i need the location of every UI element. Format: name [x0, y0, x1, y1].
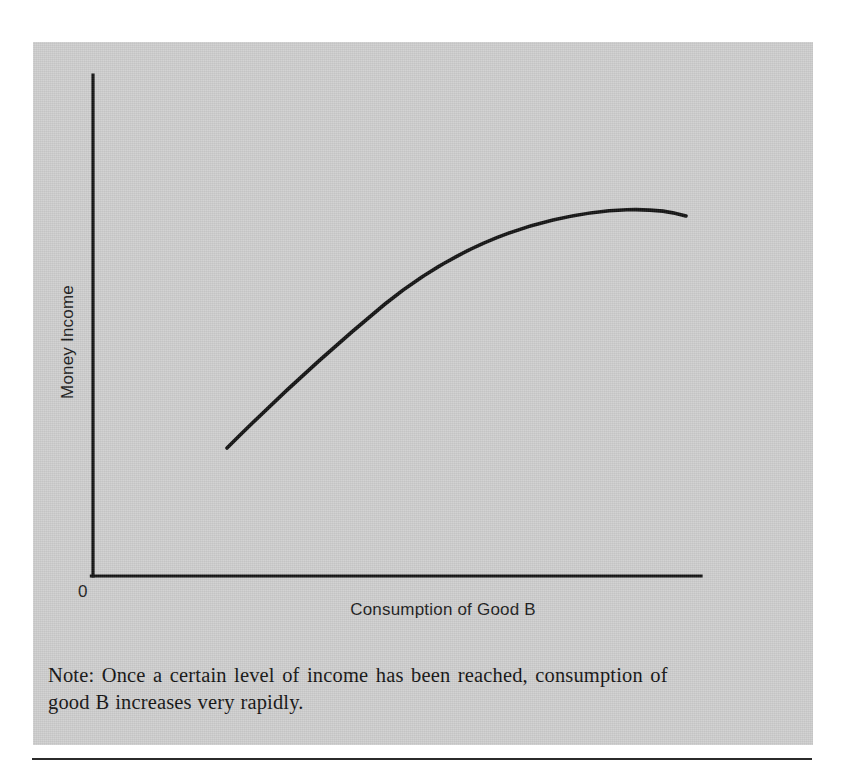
- origin-label: 0: [78, 582, 87, 602]
- figure-root: Money Income Consumption of Good B 0 Not…: [0, 0, 842, 780]
- chart-area: Money Income Consumption of Good B 0: [33, 42, 813, 745]
- figure-note: Note: Once a certain level of income has…: [48, 662, 768, 715]
- bottom-rule-divider: [32, 758, 812, 760]
- y-axis-label: Money Income: [58, 262, 78, 422]
- data-curve: [227, 210, 686, 448]
- figure-note-line-2: good B increases very rapidly.: [48, 689, 768, 716]
- figure-plate: Money Income Consumption of Good B 0 Not…: [33, 42, 813, 745]
- x-axis-label: Consumption of Good B: [213, 600, 673, 620]
- chart-plot-svg: [33, 42, 813, 642]
- figure-note-line-1: Note: Once a certain level of income has…: [48, 662, 768, 689]
